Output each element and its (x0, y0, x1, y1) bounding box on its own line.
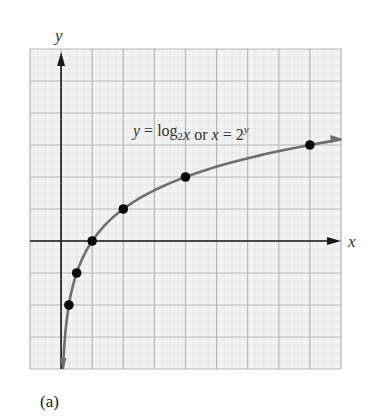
x-axis-label: x (347, 232, 356, 251)
data-point (181, 172, 191, 182)
log2-chart: y = log2x or x = 2y x y (0, 0, 368, 420)
y-axis-label: y (53, 26, 63, 45)
data-point (72, 268, 82, 278)
panel-label: (a) (40, 392, 59, 412)
data-point (87, 236, 97, 246)
data-point (64, 300, 74, 310)
data-point (305, 140, 315, 150)
data-point (119, 204, 129, 214)
